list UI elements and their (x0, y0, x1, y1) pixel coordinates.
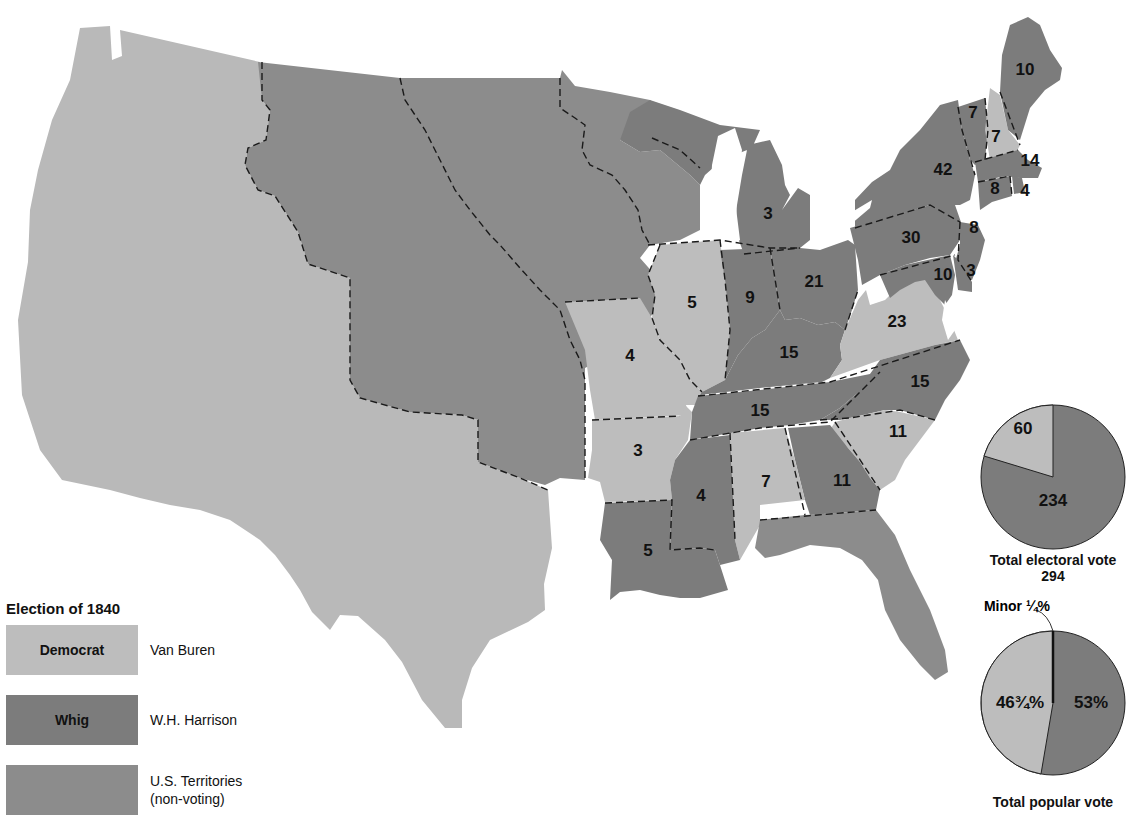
label-arkansas: 3 (633, 441, 642, 460)
popular-caption-text: Total popular vote (963, 794, 1143, 810)
territories-label: U.S. Territories (non-voting) (150, 772, 242, 808)
label-north-carolina: 15 (911, 372, 930, 391)
territories-swatch (6, 765, 138, 815)
electoral-whig-label: 234 (1039, 491, 1068, 510)
popular-whig-label: 53% (1074, 693, 1108, 712)
popular-democrat-label: 46¾% (996, 693, 1044, 712)
territories-label-line2: (non-voting) (150, 790, 242, 808)
label-illinois: 5 (687, 293, 696, 312)
whig-label: W.H. Harrison (150, 711, 237, 729)
lake-huron (795, 130, 860, 200)
legend-title: Election of 1840 (6, 600, 336, 617)
label-new-york: 42 (934, 160, 953, 179)
label-tennessee: 15 (751, 401, 770, 420)
legend-item-whig: Whig W.H. Harrison (6, 695, 336, 745)
label-pennsylvania: 30 (902, 228, 921, 247)
electoral-caption: Total electoral vote 294 (963, 552, 1143, 584)
label-louisiana: 5 (643, 541, 652, 560)
label-maine: 10 (1016, 60, 1035, 79)
label-delaware: 3 (966, 261, 975, 280)
label-massachusetts: 14 (1021, 151, 1040, 170)
state-new-york (855, 100, 975, 228)
label-maryland: 10 (934, 265, 953, 284)
legend-item-territories: U.S. Territories (non-voting) (6, 765, 336, 815)
legend: Election of 1840 Democrat Van Buren Whig… (6, 600, 336, 830)
label-missouri: 4 (625, 346, 635, 365)
label-south-carolina: 11 (889, 422, 907, 441)
territory-florida (755, 510, 948, 680)
label-indiana: 9 (745, 288, 754, 307)
legend-item-democrat: Democrat Van Buren (6, 625, 336, 675)
popular-minor-label: Minor ¼% (984, 598, 1051, 614)
label-connecticut: 8 (990, 179, 999, 198)
label-new-jersey: 8 (969, 218, 978, 237)
label-rhode-island: 4 (1020, 181, 1030, 200)
label-vermont: 7 (968, 103, 977, 122)
democrat-label: Van Buren (150, 641, 215, 659)
label-new-hampshire: 7 (991, 127, 1000, 146)
popular-vote-pie: Minor ¼% 46¾% 53% (981, 598, 1125, 775)
label-mississippi: 4 (696, 486, 706, 505)
electoral-vote-pie: 60 234 (981, 405, 1125, 549)
territories-label-line1: U.S. Territories (150, 772, 242, 790)
label-michigan: 3 (763, 204, 772, 223)
label-georgia: 11 (833, 471, 851, 490)
label-virginia: 23 (888, 312, 907, 331)
label-kentucky: 15 (780, 343, 799, 362)
democrat-swatch: Democrat (6, 625, 138, 675)
electoral-caption-text: Total electoral vote (963, 552, 1143, 568)
electoral-democrat-label: 60 (1014, 419, 1033, 438)
electoral-total: 294 (963, 568, 1143, 584)
popular-caption: Total popular vote (963, 794, 1143, 810)
label-alabama: 7 (761, 472, 770, 491)
whig-swatch: Whig (6, 695, 138, 745)
label-ohio: 21 (805, 272, 824, 291)
